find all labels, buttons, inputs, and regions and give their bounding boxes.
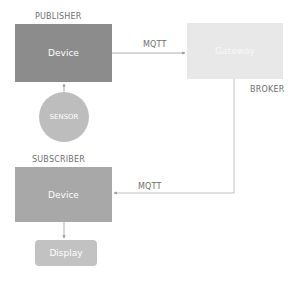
publisher-device-node: Device <box>15 24 112 82</box>
display-node: Display <box>35 240 97 266</box>
publisher-section-label: PUBLISHER <box>35 12 82 21</box>
sensor-label: SENSOR <box>50 113 79 121</box>
gateway-label: Gateway <box>215 46 255 56</box>
mqtt-subscribe-label: MQTT <box>138 182 162 191</box>
gateway-to-subscriber-arrow <box>114 79 234 193</box>
gateway-node: Gateway <box>187 23 283 79</box>
mqtt-publish-label: MQTT <box>143 40 167 49</box>
broker-label: BROKER <box>250 85 284 94</box>
subscriber-section-label: SUBSCRIBER <box>32 155 85 164</box>
publisher-device-label: Device <box>48 48 79 58</box>
sensor-node: SENSOR <box>39 92 89 142</box>
subscriber-device-label: Device <box>48 190 79 200</box>
subscriber-device-node: Device <box>15 167 112 222</box>
display-label: Display <box>49 248 82 258</box>
